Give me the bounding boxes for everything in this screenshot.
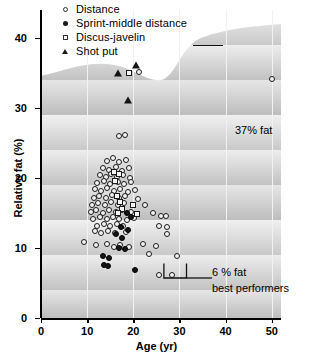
x-tick [179, 318, 180, 323]
legend-item-0[interactable]: Distance [58, 2, 187, 16]
x-tick-label: 20 [127, 325, 139, 337]
y-tick [35, 318, 40, 319]
legend-item-2[interactable]: Discus-javelin [58, 30, 187, 44]
x-axis-line [41, 318, 281, 320]
x-tick-label: 10 [81, 325, 93, 337]
legend-marker-filled-triangle-icon [58, 49, 72, 54]
x-tick-label: 30 [173, 325, 185, 337]
annotation-6-fat: 6 % fat [212, 266, 246, 278]
x-tick [133, 318, 134, 323]
y-tick [35, 178, 40, 179]
legend-label: Distance [76, 3, 120, 15]
x-tick [41, 318, 42, 323]
legend-item-1[interactable]: Sprint-middle distance [58, 16, 187, 30]
x-tick [272, 318, 273, 323]
legend-marker-open-square-icon [58, 35, 72, 40]
y-tick-label: 0 [0, 312, 27, 324]
y-tick [35, 108, 40, 109]
legend-marker-open-circle-icon [58, 7, 72, 12]
y-axis-line [40, 10, 42, 318]
x-axis-title: Age (yr) [0, 340, 313, 352]
legend-label: Sprint-middle distance [76, 17, 187, 29]
legend: DistanceSprint-middle distanceDiscus-jav… [58, 2, 187, 58]
y-tick [35, 38, 40, 39]
legend-item-3[interactable]: Shot put [58, 44, 187, 58]
x-tick-label: 0 [38, 325, 44, 337]
x-tick-label: 40 [219, 325, 231, 337]
x-tick-label: 50 [266, 325, 278, 337]
y-tick-label: 40 [0, 32, 27, 44]
figure: 01020304050010203040 Age (yr) Relative f… [0, 0, 313, 363]
x-tick [226, 318, 227, 323]
legend-label: Shot put [76, 45, 118, 57]
legend-marker-filled-circle-icon [58, 21, 72, 26]
y-tick [35, 248, 40, 249]
y-axis-title: Relative fat (%) [12, 108, 24, 248]
annotation-best-performers: best performers [212, 282, 289, 294]
x-tick [87, 318, 88, 323]
legend-label: Discus-javelin [76, 31, 145, 43]
annotation-37-fat: 37% fat [235, 124, 272, 136]
